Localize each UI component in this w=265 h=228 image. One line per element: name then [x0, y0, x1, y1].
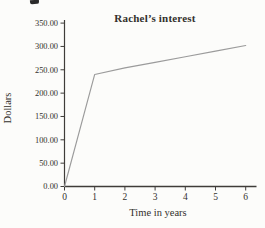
x-tick-label: 6 [243, 192, 248, 202]
scanned-chart-figure: Rachel’s interest Dollars Time in years … [0, 0, 265, 228]
y-axis-label: Dollars [2, 93, 13, 124]
x-tick-label: 1 [92, 192, 97, 202]
x-tick-label: 0 [62, 192, 67, 202]
y-tick-label: 200.00 [35, 89, 58, 98]
x-tick-label: 2 [123, 192, 128, 202]
interest-line-chart: Rachel’s interest Dollars Time in years … [0, 0, 265, 228]
y-tick-label: 100.00 [35, 136, 58, 145]
x-tick-label: 5 [213, 192, 218, 202]
y-tick-label: 350.00 [35, 19, 58, 28]
y-axis-ticks: 0.0050.00100.00150.00200.00250.00300.003… [35, 19, 65, 191]
y-tick-label: 250.00 [35, 66, 58, 75]
x-axis-label: Time in years [129, 207, 186, 218]
y-tick-label: 0.00 [43, 182, 58, 191]
x-tick-label: 4 [183, 192, 188, 202]
y-tick-label: 50.00 [39, 159, 58, 168]
y-tick-label: 300.00 [35, 42, 58, 51]
x-axis-ticks: 0123456 [62, 187, 248, 202]
y-tick-label: 150.00 [35, 112, 58, 121]
cropped-print-fragment [30, 0, 39, 4]
interest-data-line [65, 46, 246, 187]
x-tick-label: 3 [153, 192, 158, 202]
chart-title: Rachel’s interest [114, 12, 195, 24]
